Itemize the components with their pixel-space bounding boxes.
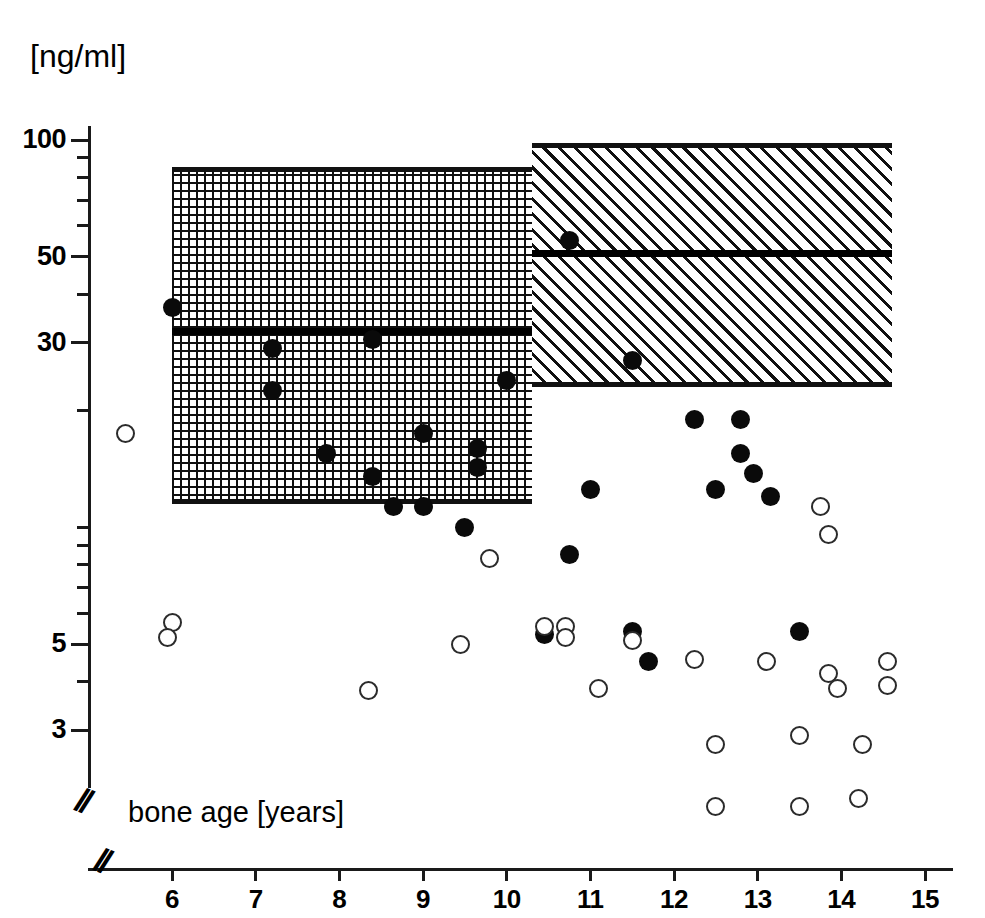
data-point-open: [556, 628, 575, 647]
data-point-filled: [639, 652, 658, 671]
data-point-open: [853, 735, 872, 754]
data-point-filled: [560, 231, 579, 250]
data-point-filled: [414, 497, 433, 516]
data-point-filled: [263, 381, 282, 400]
data-point-filled: [414, 424, 433, 443]
data-point-filled: [761, 487, 780, 506]
data-point-open: [685, 650, 704, 669]
data-point-filled: [706, 480, 725, 499]
data-point-filled: [731, 410, 750, 429]
data-point-filled: [623, 351, 642, 370]
data-point-filled: [363, 330, 382, 349]
data-point-filled: [790, 622, 809, 641]
chart-figure: [ng/ml] 100503053 6789101112131415 // //…: [0, 0, 985, 918]
data-point-open: [790, 797, 809, 816]
data-point-open: [706, 797, 725, 816]
data-point-filled: [163, 298, 182, 317]
data-point-open: [706, 735, 725, 754]
data-point-filled: [744, 464, 763, 483]
data-point-filled: [685, 410, 704, 429]
data-point-open: [878, 676, 897, 695]
data-point-filled: [468, 439, 487, 458]
data-point-open: [480, 549, 499, 568]
data-point-open: [623, 631, 642, 650]
data-point-filled: [363, 467, 382, 486]
data-point-open: [811, 497, 830, 516]
data-point-filled: [497, 371, 516, 390]
data-point-open: [828, 679, 847, 698]
data-point-filled: [317, 444, 336, 463]
data-point-filled: [560, 545, 579, 564]
data-point-open: [819, 525, 838, 544]
data-point-open: [451, 635, 470, 654]
data-point-open: [849, 789, 868, 808]
data-point-open: [589, 679, 608, 698]
data-point-filled: [384, 497, 403, 516]
data-points-layer: [0, 0, 985, 918]
data-point-open: [359, 681, 378, 700]
data-point-open: [116, 424, 135, 443]
data-point-open: [878, 652, 897, 671]
data-point-open: [790, 726, 809, 745]
data-point-filled: [581, 480, 600, 499]
data-point-filled: [468, 458, 487, 477]
data-point-filled: [455, 518, 474, 537]
data-point-open: [535, 617, 554, 636]
data-point-open: [158, 628, 177, 647]
data-point-filled: [263, 339, 282, 358]
data-point-filled: [731, 444, 750, 463]
data-point-open: [757, 652, 776, 671]
